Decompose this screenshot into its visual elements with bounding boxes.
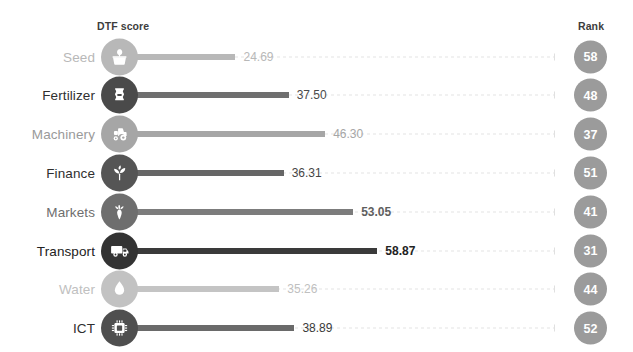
category-label: ICT <box>73 321 95 336</box>
score-bar[interactable] <box>119 325 294 331</box>
chart-row: Machinery 46.30 37 <box>0 115 633 154</box>
truck-icon <box>101 232 138 269</box>
dtf-score-column-header: DTF score <box>97 20 149 32</box>
rank-badge[interactable]: 58 <box>574 40 607 73</box>
score-track-end-tick <box>554 208 555 215</box>
score-track-end-tick <box>554 169 555 176</box>
score-track-end-tick <box>554 286 555 293</box>
score-bar[interactable] <box>119 92 289 98</box>
seed-basket-icon <box>101 38 138 75</box>
score-track-end-tick <box>554 53 555 60</box>
microchip-icon <box>101 310 138 347</box>
dtf-score-chart: DTF score Rank Seed 24.69 58 Fertilizer … <box>0 0 633 352</box>
score-track-end-tick <box>554 247 555 254</box>
category-label: Machinery <box>32 127 95 142</box>
rank-column-header: Rank <box>578 20 604 32</box>
rank-badge[interactable]: 37 <box>574 118 607 151</box>
score-value-label: 36.31 <box>292 166 322 180</box>
tractor-icon <box>101 116 138 153</box>
score-value-label: 58.87 <box>385 244 415 258</box>
score-bar[interactable] <box>119 209 353 215</box>
score-bar[interactable] <box>119 170 284 176</box>
score-value-label: 46.30 <box>333 127 363 141</box>
score-value-label: 53.05 <box>361 205 391 219</box>
score-value-label: 37.50 <box>297 88 327 102</box>
rank-badge[interactable]: 41 <box>574 195 607 228</box>
category-label: Markets <box>46 204 95 219</box>
score-value-label: 24.69 <box>243 50 273 64</box>
score-bar[interactable] <box>119 286 279 292</box>
sprout-coin-icon <box>101 154 138 191</box>
chart-row: Seed 24.69 58 <box>0 37 633 76</box>
score-bar[interactable] <box>119 248 377 254</box>
score-track-end-tick <box>554 325 555 332</box>
chart-row: Water 35.26 44 <box>0 270 633 309</box>
chart-row: Finance 36.31 51 <box>0 153 633 192</box>
chart-row: Markets 53.05 41 <box>0 192 633 231</box>
category-label: Finance <box>46 165 95 180</box>
water-drop-icon <box>101 271 138 308</box>
category-label: Water <box>59 282 95 297</box>
rank-badge[interactable]: 31 <box>574 234 607 267</box>
score-value-label: 38.89 <box>302 321 332 335</box>
rank-badge[interactable]: 48 <box>574 79 607 112</box>
chart-row: Transport 58.87 31 <box>0 231 633 270</box>
score-bar[interactable] <box>119 131 325 137</box>
category-label: Seed <box>63 49 95 64</box>
chart-row: ICT 38.89 52 <box>0 309 633 348</box>
carrot-icon <box>101 193 138 230</box>
score-track-end-tick <box>554 131 555 138</box>
chart-row: Fertilizer 37.50 48 <box>0 76 633 115</box>
rank-badge[interactable]: 44 <box>574 273 607 306</box>
category-label: Transport <box>37 243 95 258</box>
score-track-end-tick <box>554 92 555 99</box>
score-value-label: 35.26 <box>287 282 317 296</box>
rank-badge[interactable]: 52 <box>574 312 607 345</box>
fertilizer-bag-icon <box>101 77 138 114</box>
rank-badge[interactable]: 51 <box>574 156 607 189</box>
category-label: Fertilizer <box>42 88 95 103</box>
